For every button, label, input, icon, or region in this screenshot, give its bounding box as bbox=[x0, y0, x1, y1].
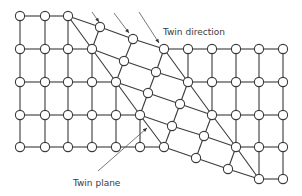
twin-plane-line bbox=[236, 147, 259, 179]
atom-parent bbox=[278, 174, 287, 183]
atom-parent bbox=[278, 44, 287, 53]
atom-parent bbox=[87, 44, 96, 53]
atom-parent bbox=[40, 110, 49, 119]
atom-parent bbox=[15, 11, 24, 20]
atom-parent bbox=[63, 77, 72, 86]
atom-parent bbox=[63, 44, 72, 53]
atom-parent bbox=[159, 142, 168, 151]
atom-twinned bbox=[128, 34, 137, 43]
atom-parent bbox=[63, 11, 72, 20]
atom-parent bbox=[40, 142, 49, 151]
atom-parent bbox=[15, 44, 24, 53]
lattice-atoms bbox=[15, 11, 287, 183]
twin-direction-arrow bbox=[139, 12, 159, 43]
lattice-bonds bbox=[20, 16, 283, 179]
atom-parent bbox=[40, 77, 49, 86]
atom-parent bbox=[231, 142, 240, 151]
atom-parent bbox=[231, 44, 240, 53]
twin-direction-arrow-head bbox=[155, 39, 159, 43]
atom-parent bbox=[111, 77, 120, 86]
atom-parent bbox=[87, 142, 96, 151]
atom-parent bbox=[278, 142, 287, 151]
atom-parent bbox=[40, 44, 49, 53]
twin-plane-line bbox=[116, 82, 140, 115]
atom-parent bbox=[135, 110, 144, 119]
twin-direction-label: Twin direction bbox=[162, 27, 225, 37]
atom-parent bbox=[15, 110, 24, 119]
atom-parent bbox=[254, 110, 263, 119]
twin-plane-line bbox=[212, 115, 236, 147]
atom-parent bbox=[111, 110, 120, 119]
atom-twinned bbox=[223, 164, 232, 173]
atom-twinned bbox=[167, 121, 176, 130]
atom-parent bbox=[231, 77, 240, 86]
atom-parent bbox=[207, 44, 216, 53]
atom-parent bbox=[63, 110, 72, 119]
atom-parent bbox=[111, 142, 120, 151]
atom-parent bbox=[254, 44, 263, 53]
atom-parent bbox=[63, 142, 72, 151]
atom-twinned bbox=[199, 131, 208, 140]
atom-parent bbox=[40, 11, 49, 20]
twin-plane-line bbox=[188, 82, 212, 115]
atom-parent bbox=[278, 77, 287, 86]
atom-parent bbox=[183, 44, 192, 53]
atom-parent bbox=[254, 77, 263, 86]
atom-parent bbox=[254, 142, 263, 151]
atom-twinned bbox=[175, 99, 184, 108]
atom-twinned bbox=[151, 67, 160, 76]
atom-parent bbox=[87, 77, 96, 86]
atom-parent bbox=[159, 44, 168, 53]
atom-parent bbox=[15, 142, 24, 151]
atom-parent bbox=[207, 77, 216, 86]
twinning-diagram: Twin direction Twin plane bbox=[0, 0, 302, 196]
twin-plane-line bbox=[68, 16, 92, 49]
twin-direction-arrow-head bbox=[125, 29, 129, 33]
atom-parent bbox=[183, 77, 192, 86]
atom-parent bbox=[135, 142, 144, 151]
twin-plane-label: Twin plane bbox=[72, 178, 121, 188]
atom-parent bbox=[207, 110, 216, 119]
twin-plane-line bbox=[164, 49, 188, 82]
atom-twinned bbox=[143, 88, 152, 97]
twin-direction-arrow-head bbox=[95, 18, 99, 22]
atom-parent bbox=[278, 110, 287, 119]
atom-parent bbox=[15, 77, 24, 86]
atom-twinned bbox=[95, 22, 104, 31]
atom-parent bbox=[231, 110, 240, 119]
atom-twinned bbox=[191, 153, 200, 162]
atom-parent bbox=[254, 174, 263, 183]
atom-twinned bbox=[119, 56, 128, 65]
atom-parent bbox=[87, 110, 96, 119]
